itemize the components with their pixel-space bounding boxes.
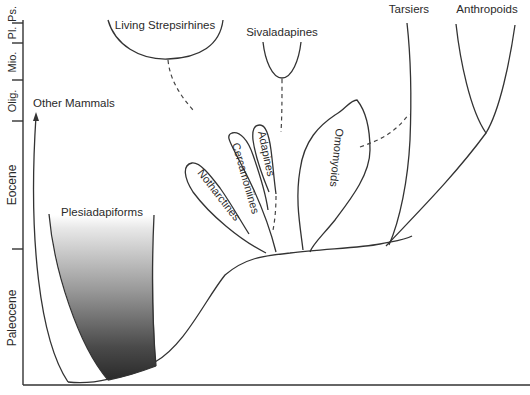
- label-notharctines: Notharctines: [195, 167, 243, 223]
- clade-omomyoids: Omomyoids: [298, 100, 409, 252]
- label-living-strepsirhines: Living Strepsirhines: [115, 19, 216, 31]
- label-other-mammals: Other Mammals: [33, 97, 115, 109]
- label-tarsiers: Tarsiers: [389, 3, 430, 15]
- clade-tarsiers: Tarsiers: [389, 3, 430, 245]
- epoch-miocene: Mio.: [6, 52, 18, 73]
- epoch-eocene: Eocene: [5, 164, 19, 205]
- sivaladapines-outline: [263, 42, 301, 78]
- tarsiers-branch: [389, 23, 411, 245]
- clade-plesiadapiforms: Plesiadapiforms: [49, 206, 156, 380]
- sivaladapines-dashed-link: [281, 79, 282, 132]
- plesiadapiforms-shading: [50, 215, 156, 380]
- label-omomyoids: Omomyoids: [328, 128, 346, 188]
- living-strepsirhines-dashed-link: [168, 60, 193, 110]
- clade-adapines: Adapines: [253, 125, 278, 230]
- epoch-paleocene: Paleocene: [5, 289, 19, 346]
- clade-sivaladapines: Sivaladapines: [246, 26, 318, 132]
- label-plesiadapiforms: Plesiadapiforms: [61, 206, 143, 218]
- epoch-oligocene: Olig.: [6, 90, 18, 113]
- phylogeny-diagram: Paleocene Eocene Olig. Mio. Pl. Ps. Othe…: [0, 0, 530, 395]
- label-anthropoids: Anthropoids: [456, 3, 518, 15]
- label-sivaladapines: Sivaladapines: [246, 26, 318, 38]
- omomyoids-tarsiers-dashed-link: [360, 114, 409, 147]
- clade-anthropoids: Anthropoids: [386, 3, 518, 246]
- epoch-pleistocene: Ps.: [6, 6, 18, 22]
- anthropoids-stem: [386, 133, 486, 246]
- epoch-pliocene: Pl.: [6, 27, 18, 40]
- anthropoids-outline: [456, 24, 515, 133]
- adapines-dashed-link: [273, 196, 276, 230]
- arrow-head-icon: [33, 112, 39, 121]
- clade-living-strepsirhines: Living Strepsirhines: [108, 19, 223, 110]
- label-adapines: Adapines: [256, 130, 277, 178]
